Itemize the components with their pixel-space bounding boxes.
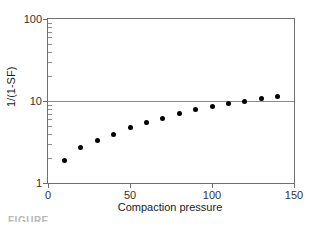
y-axis-tick-label: 10 — [30, 96, 42, 107]
x-axis-title: Compaction pressure — [47, 201, 293, 213]
x-axis-tick-major — [294, 183, 295, 188]
y-axis-tick-major — [43, 19, 48, 20]
figure-root: 1/(1-SF) 110100050100150 Compaction pres… — [0, 0, 311, 225]
y-axis-tick-minor — [48, 37, 52, 38]
data-point — [111, 132, 116, 137]
y-axis-tick-minor — [48, 62, 52, 63]
data-point — [259, 96, 264, 101]
data-point — [210, 104, 215, 109]
y-axis-tick-minor — [48, 126, 52, 127]
y-axis-title: 1/(1-SF) — [5, 93, 19, 107]
y-axis-tick-minor — [48, 134, 52, 135]
x-axis-tick-label: 0 — [45, 190, 51, 201]
data-point — [62, 158, 67, 163]
y-axis-tick-major — [43, 101, 48, 102]
y-axis-tick-minor — [48, 105, 52, 106]
x-axis-tick-major — [48, 183, 49, 188]
y-axis-tick-minor — [48, 158, 52, 159]
data-point — [160, 116, 165, 121]
x-axis-tick-major — [212, 183, 213, 188]
data-point — [226, 101, 231, 106]
caption-fragment: FIGURE — [8, 216, 49, 222]
y-axis-tick-minor — [48, 76, 52, 77]
data-point — [177, 111, 182, 116]
y-axis-tick-minor — [48, 32, 52, 33]
data-point — [144, 120, 149, 125]
y-axis-tick-minor — [48, 114, 52, 115]
plot-area: 110100050100150 — [48, 19, 294, 183]
x-axis-tick-label: 100 — [203, 190, 221, 201]
x-axis-tick-label: 150 — [285, 190, 303, 201]
y-axis-tick-minor — [48, 52, 52, 53]
y-axis-tick-label: 100 — [24, 14, 42, 25]
x-axis-tick-major — [130, 183, 131, 188]
y-axis-tick-label: 1 — [36, 178, 42, 189]
y-axis-tick-minor — [48, 144, 52, 145]
data-point — [242, 99, 247, 104]
y-axis-tick-minor — [48, 119, 52, 120]
data-point — [193, 107, 198, 112]
gridline-y — [48, 101, 294, 102]
y-axis-tick-minor — [48, 109, 52, 110]
data-point — [78, 145, 83, 150]
plot-frame: 110100050100150 — [47, 18, 295, 184]
data-point — [95, 138, 100, 143]
y-axis-tick-minor — [48, 23, 52, 24]
y-axis-tick-minor — [48, 44, 52, 45]
x-axis-tick-label: 50 — [124, 190, 136, 201]
y-axis-tick-minor — [48, 27, 52, 28]
data-point — [275, 94, 280, 99]
data-point — [128, 125, 133, 130]
